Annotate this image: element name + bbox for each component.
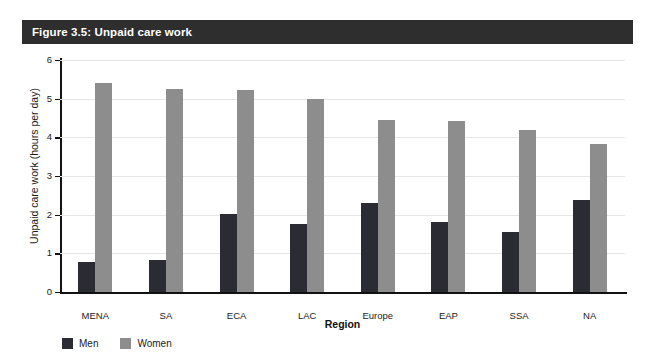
legend-swatch-men	[62, 338, 73, 349]
y-tick-label: 5	[34, 94, 52, 104]
gridline	[60, 215, 625, 216]
bar-chart: Unpaid care work (hours per day) 0123456…	[0, 50, 650, 310]
y-tick-mark	[55, 176, 60, 177]
bar-women-ssa	[519, 130, 536, 292]
y-tick-label: 1	[34, 248, 52, 258]
bar-men-eca	[220, 214, 237, 292]
bar-women-europe	[378, 120, 395, 292]
bar-women-lac	[307, 99, 324, 292]
y-tick-mark	[55, 292, 60, 293]
bar-women-eca	[237, 90, 254, 292]
bar-men-ssa	[502, 232, 519, 292]
y-tick-label: 4	[34, 132, 52, 142]
bar-men-eap	[431, 222, 448, 292]
figure-title: Figure 3.5: Unpaid care work	[22, 26, 192, 38]
bar-women-mena	[95, 83, 112, 292]
figure-title-bar: Figure 3.5: Unpaid care work	[22, 20, 633, 44]
legend-label-women: Women	[137, 338, 171, 349]
y-tick-label: 6	[34, 55, 52, 65]
bar-women-na	[590, 144, 607, 292]
bar-women-sa	[166, 89, 183, 292]
gridline	[60, 176, 625, 177]
gridline	[60, 253, 625, 254]
legend-item-women: Women	[120, 338, 171, 349]
y-tick-mark	[55, 60, 60, 61]
bar-women-eap	[448, 121, 465, 292]
gridline	[60, 137, 625, 138]
gridline	[60, 99, 625, 100]
gridline	[60, 60, 625, 61]
plot-area: 0123456MENASAECALACEuropeEAPSSANA	[60, 60, 625, 292]
bar-men-sa	[149, 260, 166, 292]
y-tick-label: 3	[34, 171, 52, 181]
chart-legend: Men Women	[62, 338, 172, 349]
y-tick-mark	[55, 137, 60, 138]
legend-swatch-women	[120, 338, 131, 349]
x-axis-title: Region	[60, 318, 625, 330]
bar-men-na	[573, 200, 590, 292]
y-tick-label: 0	[34, 287, 52, 297]
y-tick-label: 2	[34, 210, 52, 220]
legend-item-men: Men	[62, 338, 98, 349]
legend-label-men: Men	[79, 338, 98, 349]
y-tick-mark	[55, 253, 60, 254]
bar-men-europe	[361, 203, 378, 292]
y-tick-mark	[55, 215, 60, 216]
x-axis-spine	[60, 292, 627, 294]
y-tick-mark	[55, 99, 60, 100]
bar-men-mena	[78, 262, 95, 292]
bar-men-lac	[290, 224, 307, 292]
